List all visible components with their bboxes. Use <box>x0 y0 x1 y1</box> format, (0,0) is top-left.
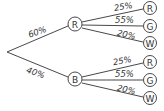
edge-label-60: 60% <box>27 24 48 40</box>
leaf-r-r-label: R <box>147 4 153 14</box>
node-b-label: B <box>72 75 78 85</box>
leaf-r-w-label: W <box>146 39 155 49</box>
edge-r-g <box>82 25 143 26</box>
edge-label-r-r: 25% <box>113 0 133 13</box>
leaf-b-r-label: R <box>147 58 153 68</box>
edge-label-b-w: 20% <box>116 83 137 97</box>
edge-label-b-g: 55% <box>115 69 134 79</box>
leaf-r-g-label: G <box>147 22 154 32</box>
edge-label-r-g: 55% <box>115 15 134 25</box>
edge-label-r-w: 20% <box>116 28 137 42</box>
leaf-b-w-label: W <box>146 94 155 104</box>
node-r-label: R <box>72 20 78 30</box>
probability-tree-diagram: 60% 40% 25% 55% 20% 25% 55% 20% R B R G … <box>0 0 164 111</box>
leaf-b-g-label: G <box>147 76 154 86</box>
edge-label-b-r: 25% <box>112 54 132 67</box>
